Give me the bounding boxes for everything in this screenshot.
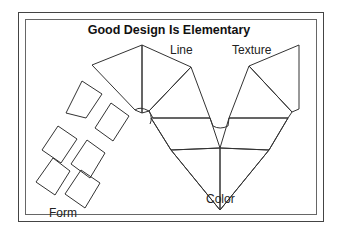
form-squares — [0, 0, 129, 208]
form-square-4 — [71, 140, 105, 178]
design-elements-illustration — [0, 0, 338, 241]
form-square-5 — [36, 158, 70, 195]
form-square-2 — [95, 103, 129, 141]
label-form: Form — [49, 207, 77, 219]
form-square-6 — [65, 170, 100, 208]
form-square-3 — [42, 126, 77, 163]
label-texture: Texture — [232, 44, 271, 56]
label-color: Color — [206, 193, 235, 205]
form-square-1 — [66, 81, 102, 118]
label-line: Line — [170, 44, 193, 56]
